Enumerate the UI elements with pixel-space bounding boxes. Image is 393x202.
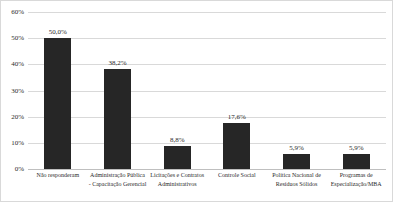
bar-value-label: 5,9% (349, 145, 364, 152)
bar-slot: 50,0% (28, 12, 88, 169)
bar-value-label: 50,0% (49, 29, 67, 36)
bar-slot: 38,2% (88, 12, 148, 169)
y-axis-tick-label: 50% (11, 35, 24, 42)
y-axis-tick-label: 20% (11, 113, 24, 120)
y-axis-tick-label: 60% (11, 9, 24, 16)
y-axis-tick-label: 40% (11, 61, 24, 68)
bar-slot: 8,8% (147, 12, 207, 169)
x-axis-category-label: Licitações e Contratos Administrativos (147, 171, 207, 188)
x-axis-category-label: Programas de Especialização/MBA (326, 171, 386, 188)
bar[interactable]: 38,2% (104, 69, 131, 169)
bar[interactable]: 17,6% (223, 123, 250, 169)
y-axis-tick-label: 0% (15, 166, 24, 173)
bar-slot: 5,9% (326, 12, 386, 169)
x-axis-category-label: Não responderam (28, 171, 88, 180)
gridline-0pct (28, 169, 386, 170)
x-axis-category-label: Administração Pública - Capacitação Gere… (88, 171, 148, 188)
bar-value-label: 17,6% (228, 114, 246, 121)
bar-value-label: 38,2% (108, 60, 126, 67)
y-axis-tick-label: 30% (11, 87, 24, 94)
bar[interactable]: 8,8% (164, 146, 191, 169)
plot-area: 60%50%40%30%20%10%0% 50,0%38,2%8,8%17,6%… (28, 12, 386, 169)
bar[interactable]: 5,9% (283, 154, 310, 169)
bar-chart-figure: 60%50%40%30%20%10%0% 50,0%38,2%8,8%17,6%… (0, 0, 393, 202)
bar-value-label: 8,8% (170, 137, 185, 144)
y-axis-tick-label: 10% (11, 139, 24, 146)
x-axis-category-label: Política Nacional de Resíduos Sólidos (267, 171, 327, 188)
bar[interactable]: 5,9% (343, 154, 370, 169)
bar-slot: 17,6% (207, 12, 267, 169)
bars-group: 50,0%38,2%8,8%17,6%5,9%5,9% (28, 12, 386, 169)
bar-slot: 5,9% (267, 12, 327, 169)
x-axis-category-label: Controle Social (207, 171, 267, 180)
bar[interactable]: 50,0% (44, 38, 71, 169)
x-axis-category-labels: Não responderamAdministração Pública - C… (28, 171, 386, 188)
bar-value-label: 5,9% (289, 145, 304, 152)
